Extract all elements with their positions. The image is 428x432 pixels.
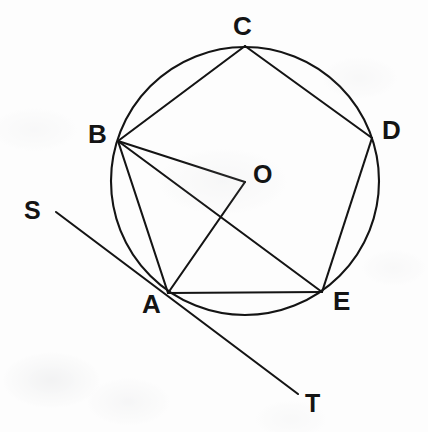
chord-AB: [118, 141, 168, 293]
segments-group: [56, 46, 372, 394]
radius-AO: [168, 182, 245, 293]
point-label-d: D: [382, 117, 401, 143]
tangent-ST: [56, 212, 298, 394]
radius-BO: [118, 141, 245, 182]
point-label-b: B: [88, 121, 107, 147]
chord-CD: [245, 46, 372, 138]
chord-EA: [168, 292, 322, 293]
point-label-t: T: [305, 391, 320, 416]
chord-BC: [118, 46, 245, 141]
point-label-e: E: [333, 288, 350, 314]
point-label-c: C: [233, 13, 252, 39]
diagram-canvas: [0, 0, 428, 432]
point-label-a: A: [142, 291, 161, 317]
point-label-o: O: [253, 162, 272, 187]
point-label-s: S: [24, 198, 41, 223]
geometry-diagram: ABCDEOST: [0, 0, 428, 432]
